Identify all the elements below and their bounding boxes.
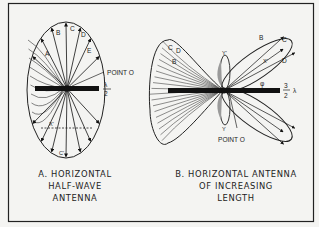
hatch-line: [158, 65, 223, 90]
feed-point: [221, 88, 227, 94]
arrow-label-d: D: [81, 31, 86, 38]
three-halves-numerator: 3: [284, 82, 288, 89]
caption-a-line-2: HALF-WAVE: [48, 181, 102, 191]
half-lambda-denominator: 2: [104, 90, 108, 97]
field-ray: [67, 89, 91, 142]
caption-b-line-2: OF INCREASING: [199, 181, 273, 191]
arrow-label-a: A: [45, 50, 50, 57]
hatch-line: [162, 48, 222, 90]
y-label: Y: [222, 126, 226, 132]
lower-minor-shading: [217, 93, 222, 120]
field-ray: [66, 89, 67, 157]
half-lambda-numerator: λ: [104, 81, 108, 88]
c-prime-label: C': [59, 150, 64, 156]
lambda-unit: λ: [293, 87, 297, 94]
x-prime-label: X': [263, 58, 268, 64]
field-ray: [41, 89, 67, 142]
arrow-label-c: C: [70, 25, 75, 32]
right-label-d: D: [282, 57, 287, 64]
arrow-label-b: B: [56, 29, 61, 36]
panel-b-increasing-length-antenna: C D B B C D X' φ Y' Y POINT O 3 2 λ B. H…: [149, 30, 298, 203]
right-label-b: B: [259, 34, 264, 41]
y-prime-label: Y': [222, 50, 227, 56]
upper-minor-shading: [217, 60, 222, 87]
field-ray: [67, 57, 99, 89]
phi-angle-label: φ: [260, 80, 264, 88]
hatch-line: [156, 71, 222, 90]
caption-b-line-1: B. HORIZONTAL ANTENNA: [175, 169, 297, 179]
hatch-line: [156, 90, 222, 117]
antenna-radiation-figure: A B C D E POINT O λ 2 X' C' A. HORIZONTA…: [0, 0, 319, 227]
right-label-c: C: [282, 36, 287, 43]
left-label-b: B: [172, 58, 177, 65]
three-halves-denominator: 2: [284, 92, 288, 99]
caption-a-line-3: ANTENNA: [53, 193, 98, 203]
field-ray: [224, 49, 283, 90]
field-ray: [67, 89, 99, 124]
point-o-label: POINT O: [218, 136, 245, 143]
field-ray: [67, 28, 80, 88]
x-prime-label: X': [49, 121, 54, 127]
panel-a-half-wave-antenna: A B C D E POINT O λ 2 X' C' A. HORIZONTA…: [27, 22, 134, 203]
caption-b-line-3: LENGTH: [217, 193, 254, 203]
left-label-d: D: [176, 47, 181, 54]
caption-a-line-1: A. HORIZONTAL: [38, 169, 111, 179]
left-label-c: C: [168, 44, 173, 51]
field-ray: [66, 23, 67, 88]
arrow-label-e: E: [87, 47, 92, 54]
field-ray: [67, 89, 80, 152]
feed-point: [64, 86, 70, 92]
point-o-label: POINT O: [107, 69, 134, 76]
